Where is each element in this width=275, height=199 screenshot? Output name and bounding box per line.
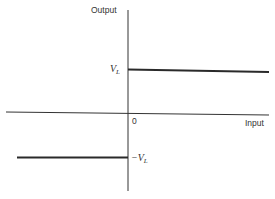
positive-level-line	[128, 70, 269, 73]
chart-canvas	[0, 0, 275, 199]
x-axis	[6, 112, 269, 115]
y-axis-label: Output	[91, 5, 117, 15]
vl-tick-label: VL	[110, 63, 120, 76]
origin-label: 0	[132, 116, 137, 126]
x-axis-label: Input	[245, 118, 264, 128]
neg-vl-tick-label: −VL	[131, 152, 148, 165]
